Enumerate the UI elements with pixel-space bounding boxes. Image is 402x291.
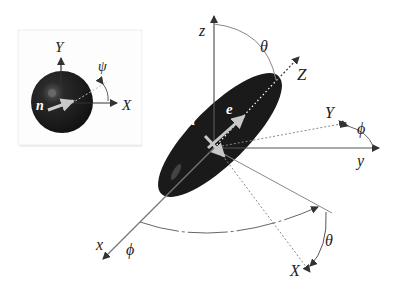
body-X-axis [220, 152, 310, 272]
diagram-canvas: Y X ψ n z θ [0, 0, 402, 291]
label-y: y [355, 152, 365, 170]
theta-arc-bottom [310, 212, 326, 266]
phi-arc-bottom [140, 207, 318, 233]
projection-line [220, 152, 332, 213]
label-phi-bottom: ϕ [126, 241, 134, 259]
ellipsoid [142, 57, 299, 214]
label-Y: Y [325, 104, 336, 121]
inset-label-psi: ψ [98, 59, 107, 74]
inset-label-n: n [36, 98, 44, 113]
label-phi-right: ϕ [357, 120, 365, 138]
inset-panel: Y X ψ n [18, 30, 142, 146]
x-axis [103, 148, 214, 259]
label-Z: Z [297, 65, 307, 84]
label-theta-bottom: θ [325, 232, 333, 249]
label-n: n [187, 112, 195, 128]
label-theta-top: θ [260, 38, 268, 55]
label-X: X [289, 262, 301, 279]
label-x: x [95, 236, 103, 253]
label-e: e [226, 101, 233, 117]
label-z: z [198, 22, 206, 39]
inset-label-X: X [121, 97, 132, 113]
